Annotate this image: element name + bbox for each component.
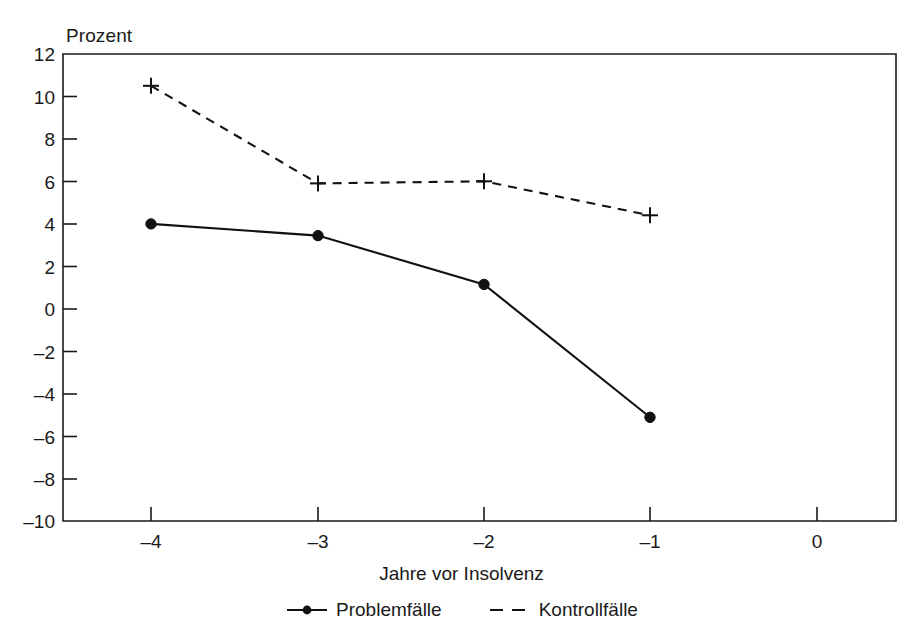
line-chart-plot: 12 10 8 6 4 2 0 –2 –4 –6 –8 –10 –4 –3 –2…	[0, 0, 923, 634]
data-point-marker-dot	[645, 412, 655, 422]
chart-page: Prozent 12 10 8 6 4 2 0 –2	[0, 0, 923, 634]
data-point-marker-dot	[479, 279, 489, 289]
ytick-label: 6	[44, 172, 55, 193]
ytick-label: 0	[44, 299, 55, 320]
x-axis-label: Jahre vor Insolvenz	[0, 563, 923, 585]
series-problemfaelle	[146, 219, 655, 423]
series-kontrollfaelle	[143, 78, 658, 224]
x-axis-tick-labels: –4 –3 –2 –1 0	[140, 531, 822, 552]
xtick-label: –3	[307, 531, 328, 552]
ytick-label: –2	[34, 342, 55, 363]
dashed-line-marker-icon	[488, 603, 532, 617]
y-axis-tick-labels: 12 10 8 6 4 2 0 –2 –4 –6 –8 –10	[23, 44, 55, 532]
ytick-label: 4	[44, 214, 55, 235]
ytick-label: –4	[34, 384, 56, 405]
legend-item-problemfaelle: Problemfälle	[285, 599, 442, 621]
ytick-label: –6	[34, 427, 55, 448]
legend-label: Problemfälle	[336, 599, 442, 621]
legend-item-kontrollfaelle: Kontrollfälle	[488, 599, 638, 621]
xtick-label: –4	[140, 531, 162, 552]
data-point-marker-dot	[313, 230, 323, 240]
ytick-label: 10	[34, 87, 55, 108]
ytick-label: 8	[44, 129, 55, 150]
xtick-label: –1	[639, 531, 660, 552]
ytick-label: 12	[34, 44, 55, 65]
line-dot-marker-icon	[285, 603, 329, 617]
data-point-marker-plus	[642, 207, 658, 223]
data-point-marker-plus	[310, 175, 326, 191]
ytick-label: –10	[23, 511, 55, 532]
x-axis-ticks	[151, 507, 817, 521]
y-axis-ticks	[63, 97, 77, 480]
xtick-label: 0	[812, 531, 823, 552]
ytick-label: –8	[34, 469, 55, 490]
legend-label: Kontrollfälle	[539, 599, 638, 621]
xtick-label: –2	[473, 531, 494, 552]
chart-legend: Problemfälle Kontrollfälle	[0, 599, 923, 621]
data-point-marker-plus	[143, 78, 159, 94]
data-point-marker-plus	[476, 173, 492, 189]
data-point-marker-dot	[146, 219, 156, 229]
ytick-label: 2	[44, 257, 55, 278]
